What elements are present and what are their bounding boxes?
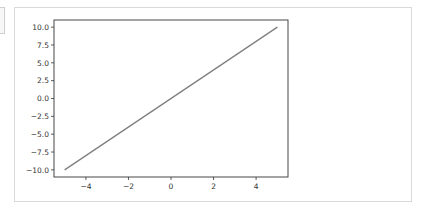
y-axis-ticks: 10.07.55.02.50.0−2.5−5.0−7.5−10.0 [26,23,54,175]
line-chart: 10.07.55.02.50.0−2.5−5.0−7.5−10.0 −4−202… [0,0,423,213]
y-tick-label: 0.0 [37,94,49,103]
data-series [65,27,278,170]
x-axis-ticks: −4−2024 [80,177,258,191]
y-tick-label: −10.0 [26,166,49,175]
x-tick-label: −4 [80,182,91,191]
y-tick-label: −5.0 [31,130,49,139]
y-tick-label: 5.0 [37,59,49,68]
y-tick-label: −2.5 [31,112,49,121]
y-tick-label: 7.5 [37,41,49,50]
x-tick-label: 2 [211,182,216,191]
y-tick-label: 2.5 [37,76,49,85]
x-tick-label: −2 [123,182,134,191]
y-tick-label: −7.5 [31,148,49,157]
y-tick-label: 10.0 [32,23,49,32]
x-tick-label: 0 [169,182,174,191]
x-tick-label: 4 [254,182,259,191]
series-line [65,27,278,170]
